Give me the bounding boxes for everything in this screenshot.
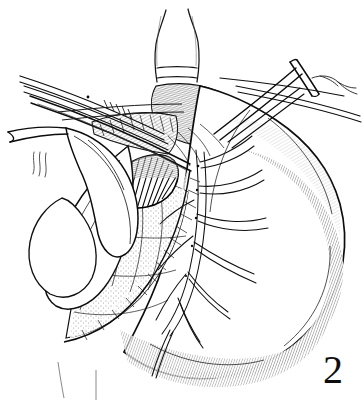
instrument-pivot	[87, 96, 90, 99]
figure-number-label: 2	[313, 348, 353, 392]
surgical-illustration	[0, 0, 363, 402]
figure-container: 2	[0, 0, 363, 402]
